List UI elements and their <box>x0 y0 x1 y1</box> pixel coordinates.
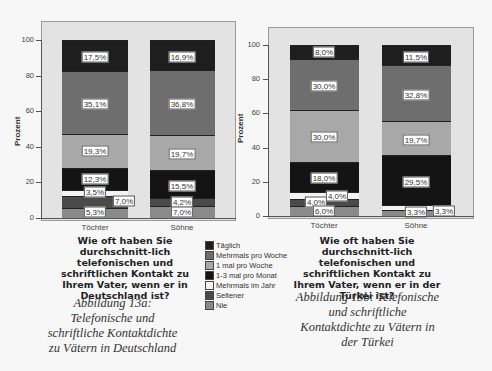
chart-b-category-soehne: Söhne <box>386 221 446 230</box>
chart-a-tick-40: 40 <box>14 142 34 151</box>
chart-a-tick-80: 80 <box>14 71 34 80</box>
swatch <box>205 271 214 280</box>
chart-a-tick-60: 60 <box>14 106 34 115</box>
value-label: 19,3% <box>82 146 109 157</box>
tickmark <box>36 182 41 183</box>
tickmark <box>36 111 41 112</box>
value-label: 3,3% <box>433 206 455 217</box>
tickmark <box>263 182 268 183</box>
chart-b-category-toechter: Töchter <box>294 221 354 230</box>
chart-a-category-soehne: Söhne <box>152 223 212 232</box>
tickmark <box>36 40 41 41</box>
tickmark <box>263 45 268 46</box>
value-label: 19,7% <box>169 149 196 160</box>
chart-a-x-axis <box>41 218 236 219</box>
value-label: 19,7% <box>403 135 430 146</box>
legend-label: Seltener <box>216 291 244 300</box>
chart-b-tick-60: 60 <box>240 108 260 117</box>
value-label: 7,0% <box>113 196 135 207</box>
value-label: 5,3% <box>84 207 106 218</box>
legend-label: Nie <box>216 301 227 310</box>
chart-b-tick-100: 100 <box>240 40 260 49</box>
value-label: 18,0% <box>311 173 338 184</box>
tickmark <box>36 76 41 77</box>
swatch <box>205 251 214 260</box>
legend-item-taeglich: Täglich <box>205 240 287 250</box>
chart-b-tick-20: 20 <box>240 177 260 186</box>
value-label: 11,5% <box>403 52 429 63</box>
legend-item-seltener: Seltener <box>205 290 287 300</box>
legend-item-woche: 1 mal pro Woche <box>205 260 287 270</box>
value-label: 15,5% <box>169 181 196 192</box>
chart-b-bar-toechter <box>290 45 359 216</box>
value-label: 6,0% <box>313 206 335 217</box>
chart-b-tick-40: 40 <box>240 143 260 152</box>
chart-a-caption: Abbildung 13a: Telefonische und schriftl… <box>45 296 180 356</box>
tickmark <box>263 148 268 149</box>
swatch <box>205 291 214 300</box>
chart-a-y-axis <box>41 40 42 218</box>
value-label: 35,1% <box>82 99 109 110</box>
legend-label: Täglich <box>216 241 240 250</box>
chart-a-category-toechter: Töchter <box>65 223 125 232</box>
value-label: 16,9% <box>169 52 196 63</box>
tickmark <box>36 147 41 148</box>
legend-item-nie: Nie <box>205 300 287 310</box>
chart-b-tick-0: 0 <box>240 211 260 220</box>
chart-b-x-axis <box>268 216 474 217</box>
value-label: 36,8% <box>169 99 196 110</box>
legend-label: Mehrmals im Jahr <box>216 281 276 290</box>
swatch <box>205 261 214 270</box>
value-label: 12,3% <box>82 174 109 185</box>
legend-item-jahr: Mehrmals im Jahr <box>205 280 287 290</box>
chart-a-tick-0: 0 <box>14 213 34 222</box>
chart-b-y-axis <box>268 45 269 216</box>
chart-a-tick-20: 20 <box>14 177 34 186</box>
chart-b-tick-80: 80 <box>240 74 260 83</box>
value-label: 32,8% <box>403 90 430 101</box>
chart-a-tick-100: 100 <box>14 35 34 44</box>
value-label: 29,5% <box>403 177 430 188</box>
swatch <box>205 241 214 250</box>
chart-b-y-axis-label: Prozent <box>236 114 245 143</box>
legend: Täglich Mehrmals pro Woche 1 mal pro Woc… <box>205 240 287 310</box>
chart-a-question: Wie oft haben Sie durchschnitt-lich tele… <box>50 235 200 301</box>
value-label: 30,0% <box>311 132 338 143</box>
legend-label: Mehrmals pro Woche <box>216 251 287 260</box>
value-label: 7,0% <box>171 207 193 218</box>
value-label: 3,5% <box>84 187 106 198</box>
tickmark <box>263 113 268 114</box>
swatch <box>205 301 214 310</box>
chart-b-bar-soehne <box>382 45 451 216</box>
value-label: 4,0% <box>326 191 348 202</box>
legend-item-monat: 1-3 mal pro Monat <box>205 270 287 280</box>
value-label: 17,5% <box>82 52 109 63</box>
value-label: 8,0% <box>313 47 335 58</box>
chart-b-caption: Abbildung 13b: Telefonische und schriftl… <box>295 290 440 350</box>
legend-label: 1-3 mal pro Monat <box>216 271 277 280</box>
value-label: 30,0% <box>311 81 338 92</box>
legend-item-mehrmals-woche: Mehrmals pro Woche <box>205 250 287 260</box>
tickmark <box>263 79 268 80</box>
swatch <box>205 281 214 290</box>
legend-label: 1 mal pro Woche <box>216 261 273 270</box>
